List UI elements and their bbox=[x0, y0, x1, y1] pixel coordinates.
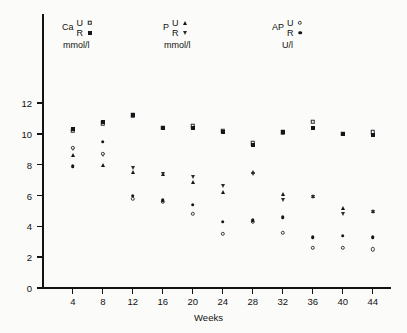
open-circle-icon bbox=[191, 212, 195, 216]
filled-circle-icon bbox=[191, 203, 195, 207]
filled-triangle-icon bbox=[191, 180, 195, 184]
down-triangle-icon bbox=[371, 210, 375, 214]
open-circle-icon bbox=[341, 246, 345, 250]
filled-square-icon bbox=[191, 126, 195, 130]
down-triangle-icon bbox=[191, 175, 195, 179]
down-triangle-icon bbox=[221, 184, 225, 188]
open-circle-icon bbox=[371, 247, 375, 251]
x-tick bbox=[282, 289, 283, 294]
filled-circle-icon bbox=[221, 220, 225, 224]
down-triangle-icon bbox=[161, 172, 165, 176]
x-tick-label: 36 bbox=[300, 296, 326, 307]
x-tick bbox=[192, 289, 193, 294]
y-tick-label: 6 bbox=[10, 190, 32, 201]
filled-circle-icon bbox=[161, 198, 165, 202]
x-tick-label: 12 bbox=[120, 296, 146, 307]
scatter-plot-figure: Ca U R mmol/l P bbox=[0, 0, 407, 333]
y-tick-label: 4 bbox=[10, 221, 32, 232]
x-axis-line bbox=[42, 287, 391, 289]
filled-square-icon bbox=[371, 133, 375, 137]
y-tick-label: 12 bbox=[10, 98, 32, 109]
x-tick bbox=[222, 289, 223, 294]
filled-triangle-icon bbox=[341, 206, 345, 210]
x-tick-label: 4 bbox=[60, 296, 86, 307]
filled-square-icon bbox=[101, 120, 105, 124]
x-tick-label: 16 bbox=[150, 296, 176, 307]
filled-square-icon bbox=[221, 130, 225, 134]
filled-circle-icon bbox=[251, 218, 255, 222]
y-tick bbox=[37, 256, 42, 257]
filled-circle-icon bbox=[311, 235, 315, 239]
x-tick bbox=[102, 289, 103, 294]
y-tick bbox=[37, 164, 42, 165]
y-tick-label: 0 bbox=[10, 283, 32, 294]
y-axis-line bbox=[42, 14, 44, 289]
x-tick-label: 32 bbox=[270, 296, 296, 307]
filled-square-icon bbox=[341, 132, 345, 136]
y-tick bbox=[37, 195, 42, 196]
x-tick-label: 8 bbox=[90, 296, 116, 307]
x-axis-title-label: Weeks bbox=[194, 312, 223, 323]
down-triangle-icon bbox=[341, 212, 345, 216]
plot-area: 024681012 48121620242832364044 bbox=[0, 0, 407, 333]
down-triangle-icon bbox=[251, 172, 255, 176]
filled-triangle-icon bbox=[281, 192, 285, 196]
x-tick bbox=[372, 289, 373, 294]
x-tick-label: 28 bbox=[240, 296, 266, 307]
x-tick-label: 40 bbox=[330, 296, 356, 307]
x-tick-label: 44 bbox=[360, 296, 386, 307]
y-tick bbox=[37, 133, 42, 134]
y-tick-label: 2 bbox=[10, 252, 32, 263]
x-tick bbox=[342, 289, 343, 294]
y-tick-label: 10 bbox=[10, 128, 32, 139]
down-triangle-icon bbox=[281, 198, 285, 202]
filled-square-icon bbox=[131, 113, 135, 117]
y-tick bbox=[37, 226, 42, 227]
filled-square-icon bbox=[281, 130, 285, 134]
filled-square-icon bbox=[71, 127, 75, 131]
down-triangle-icon bbox=[131, 166, 135, 170]
open-square-icon bbox=[311, 119, 316, 124]
filled-circle-icon bbox=[71, 164, 75, 168]
x-tick bbox=[312, 289, 313, 294]
x-tick bbox=[132, 289, 133, 294]
filled-circle-icon bbox=[341, 234, 345, 238]
y-tick bbox=[37, 287, 42, 288]
x-tick-label: 20 bbox=[180, 296, 206, 307]
down-triangle-icon bbox=[311, 195, 315, 199]
filled-triangle-icon bbox=[131, 170, 135, 174]
y-tick-label: 8 bbox=[10, 159, 32, 170]
open-circle-icon bbox=[281, 230, 285, 234]
filled-triangle-icon bbox=[71, 153, 75, 157]
filled-circle-icon bbox=[131, 194, 135, 198]
x-tick bbox=[72, 289, 73, 294]
filled-circle-icon bbox=[281, 215, 285, 219]
filled-square-icon bbox=[161, 126, 165, 130]
x-tick-label: 24 bbox=[210, 296, 236, 307]
open-circle-icon bbox=[311, 246, 315, 250]
x-axis-title: Weeks bbox=[0, 312, 407, 323]
filled-triangle-icon bbox=[221, 190, 225, 194]
x-tick bbox=[162, 289, 163, 294]
y-tick bbox=[37, 102, 42, 103]
filled-triangle-icon bbox=[101, 163, 105, 167]
filled-square-icon bbox=[311, 126, 315, 130]
open-circle-icon bbox=[221, 232, 225, 236]
filled-circle-icon bbox=[101, 140, 105, 144]
filled-square-icon bbox=[251, 143, 255, 147]
filled-circle-icon bbox=[371, 235, 375, 239]
x-tick bbox=[252, 289, 253, 294]
